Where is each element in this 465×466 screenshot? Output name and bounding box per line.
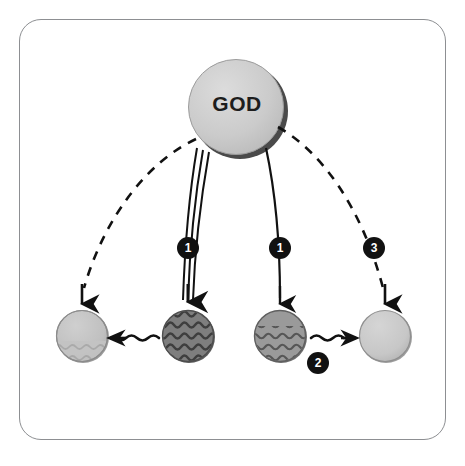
badge-3[interactable] xyxy=(363,237,385,259)
node-4[interactable] xyxy=(360,311,413,364)
badge-2[interactable] xyxy=(307,352,329,374)
diagram-artwork xyxy=(0,0,465,466)
node-4-circle xyxy=(360,311,411,362)
connector-dashed-right xyxy=(278,127,385,304)
connector-single-right xyxy=(266,148,280,304)
badge-1b[interactable] xyxy=(269,237,291,259)
connector-dashed-left xyxy=(82,139,196,304)
god-node-circle xyxy=(189,60,284,155)
connector-wavy-right xyxy=(311,336,356,341)
node-2[interactable] xyxy=(162,310,215,363)
diagram-canvas: GOD 1 1 3 2 xyxy=(0,0,465,466)
single-line-path xyxy=(266,148,280,298)
triple-line-1 xyxy=(188,150,203,300)
dashed-left-path xyxy=(84,139,196,288)
node-1-wave-texture xyxy=(56,341,108,362)
dashed-right-path xyxy=(278,127,383,288)
wavy-right-path xyxy=(311,336,344,341)
god-node[interactable] xyxy=(189,60,289,160)
node-3[interactable] xyxy=(254,311,307,364)
node-3-wave-texture xyxy=(254,326,306,362)
triple-line-2 xyxy=(193,152,209,300)
connector-triple-left xyxy=(183,148,209,302)
node-1[interactable] xyxy=(56,311,109,364)
connector-wavy-left xyxy=(110,336,159,341)
badge-1a[interactable] xyxy=(177,237,199,259)
